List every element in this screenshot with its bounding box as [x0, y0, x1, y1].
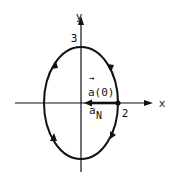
y-axis [78, 16, 84, 172]
direction-arrow-top-right-icon [107, 64, 114, 72]
x-tick-label: 2 [122, 107, 129, 120]
y-tick-label: 3 [71, 32, 78, 45]
x-axis-arrowhead-icon [144, 100, 153, 106]
aN-subscript: N [96, 110, 102, 121]
aN-label: a [89, 104, 96, 117]
a0-label: a(0) [88, 86, 115, 99]
y-axis-label: y [76, 10, 83, 23]
x-axis-label: x [159, 97, 166, 110]
vector-arrow-symbol: → [89, 73, 95, 83]
ellipse-diagram: y x 3 2 → a(0) a N [0, 0, 175, 179]
diagram-canvas: y x 3 2 → a(0) a N [0, 0, 175, 179]
point-at-t0 [115, 100, 120, 105]
